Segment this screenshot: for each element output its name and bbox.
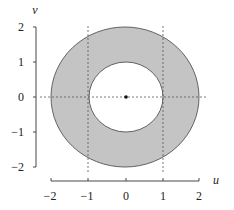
v-axis bbox=[33, 27, 36, 167]
u-axis bbox=[51, 178, 199, 181]
origin-point bbox=[124, 95, 128, 99]
v-tick-2: 2 bbox=[18, 20, 24, 34]
u-tick-2: 2 bbox=[196, 189, 202, 203]
u-tick-1: 1 bbox=[160, 189, 166, 203]
v-tick-1: 1 bbox=[18, 55, 24, 69]
v-tick-0: 0 bbox=[18, 90, 24, 104]
u-axis-label: u bbox=[213, 173, 219, 187]
u-tick-minus-2: −2 bbox=[44, 189, 57, 203]
v-axis-label: v bbox=[32, 3, 38, 17]
u-tick-0: 0 bbox=[123, 189, 129, 203]
v-tick-minus-1: −1 bbox=[11, 125, 24, 139]
v-tick-minus-2: −2 bbox=[11, 160, 24, 174]
annulus-figure: 2 1 0 −1 −2 v −2 −1 0 1 2 u bbox=[0, 0, 234, 210]
u-tick-minus-1: −1 bbox=[81, 189, 94, 203]
